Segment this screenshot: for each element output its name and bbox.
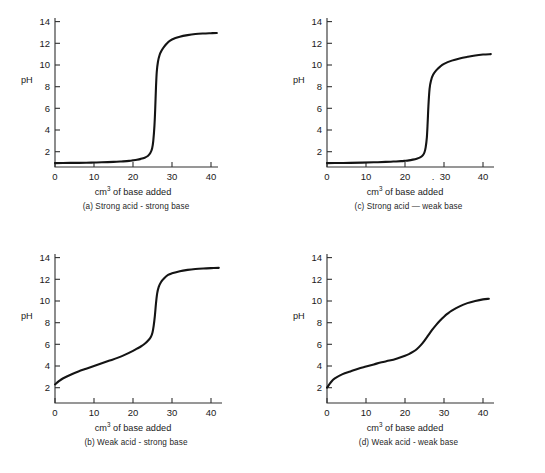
panel-c: pH 14 12 10 8 6 4 2 — [272, 0, 545, 236]
svg-text:10: 10 — [361, 171, 372, 182]
chart-c-plot: pH 14 12 10 8 6 4 2 — [272, 0, 545, 236]
svg-text:14: 14 — [39, 252, 50, 263]
panel-d: pH 14 12 10 8 6 4 2 — [272, 236, 545, 473]
svg-text:10: 10 — [311, 295, 322, 306]
y-axis-label-a: pH — [21, 75, 33, 85]
x-tick-labels-d: 0 10 20 30 40 — [324, 407, 488, 418]
svg-text:4: 4 — [45, 360, 50, 371]
axes-c — [327, 18, 494, 167]
svg-text:8: 8 — [45, 317, 50, 328]
x-ticks-d — [327, 398, 483, 403]
x-tick-labels-c: 0 10 20 . 30 40 — [324, 171, 488, 182]
svg-text:10: 10 — [361, 407, 372, 418]
x-ticks-b — [55, 398, 211, 403]
axes-b — [55, 254, 222, 403]
y-tick-labels-c: 14 12 10 8 6 4 2 — [311, 16, 322, 157]
panel-a: pH 14 12 10 8 6 4 2 — [0, 0, 272, 236]
svg-text:40: 40 — [478, 171, 489, 182]
svg-text:30: 30 — [439, 407, 450, 418]
svg-text:20: 20 — [128, 171, 139, 182]
y-ticks-a — [55, 22, 60, 152]
svg-text:12: 12 — [39, 274, 50, 285]
titration-curves-figure: pH 14 12 10 8 6 4 2 — [0, 0, 545, 473]
y-tick-labels-d: 14 12 10 8 6 4 2 — [311, 252, 322, 393]
svg-text:40: 40 — [478, 407, 489, 418]
x-tick-labels-a: 0 10 20 30 40 — [52, 171, 216, 182]
y-axis-label-c: pH — [293, 75, 305, 85]
y-tick-labels-b: 14 12 10 8 6 4 2 — [39, 252, 50, 393]
chart-a-plot: pH 14 12 10 8 6 4 2 — [0, 0, 272, 236]
svg-text:10: 10 — [89, 407, 100, 418]
curve-a — [55, 33, 217, 163]
scan-artifact-dot-c: . — [432, 171, 435, 182]
x-axis-label-c: cm3 of base added — [367, 185, 444, 197]
x-tick-labels-b: 0 10 20 30 40 — [52, 407, 216, 418]
y-ticks-c — [327, 22, 332, 152]
svg-text:30: 30 — [167, 171, 178, 182]
svg-text:30: 30 — [167, 407, 178, 418]
svg-text:2: 2 — [45, 146, 50, 157]
svg-text:12: 12 — [39, 38, 50, 49]
svg-text:30: 30 — [440, 171, 451, 182]
svg-text:2: 2 — [45, 382, 50, 393]
curve-b — [55, 268, 219, 385]
svg-text:0: 0 — [52, 171, 57, 182]
y-tick-labels-a: 14 12 10 8 6 4 2 — [39, 16, 50, 157]
caption-c: (c) Strong acid — weak base — [272, 202, 545, 211]
svg-text:6: 6 — [317, 103, 322, 114]
y-axis-label-b: pH — [21, 311, 33, 321]
x-axis-label-b: cm3 of base added — [95, 421, 172, 433]
svg-text:40: 40 — [206, 407, 217, 418]
svg-text:10: 10 — [311, 59, 322, 70]
y-axis-label-d: pH — [293, 311, 305, 321]
axes-a — [55, 18, 218, 167]
svg-text:6: 6 — [45, 339, 50, 350]
svg-text:4: 4 — [45, 124, 50, 135]
svg-text:20: 20 — [400, 407, 411, 418]
svg-text:0: 0 — [324, 171, 329, 182]
caption-b: (b) Weak acid - strong base — [0, 438, 272, 447]
svg-text:4: 4 — [317, 124, 322, 135]
panel-b: pH 14 12 10 8 6 4 2 — [0, 236, 272, 473]
x-axis-label-d: cm3 of base added — [367, 421, 444, 433]
x-axis-label-a: cm3 of base added — [95, 185, 172, 197]
svg-text:6: 6 — [45, 103, 50, 114]
svg-text:2: 2 — [317, 382, 322, 393]
svg-text:10: 10 — [89, 171, 100, 182]
svg-text:12: 12 — [311, 38, 322, 49]
svg-text:20: 20 — [128, 407, 139, 418]
svg-text:8: 8 — [45, 81, 50, 92]
svg-text:4: 4 — [317, 360, 322, 371]
curve-d — [327, 299, 489, 388]
svg-text:8: 8 — [317, 317, 322, 328]
svg-text:14: 14 — [311, 252, 322, 263]
svg-text:10: 10 — [39, 295, 50, 306]
curve-c — [327, 54, 491, 163]
svg-text:10: 10 — [39, 59, 50, 70]
svg-text:12: 12 — [311, 274, 322, 285]
svg-text:14: 14 — [39, 16, 50, 27]
axes-d — [327, 254, 494, 403]
svg-text:6: 6 — [317, 339, 322, 350]
svg-text:14: 14 — [311, 16, 322, 27]
svg-text:40: 40 — [206, 171, 217, 182]
svg-text:8: 8 — [317, 81, 322, 92]
caption-a: (a) Strong acid - strong base — [0, 202, 272, 211]
y-ticks-d — [327, 258, 332, 388]
y-ticks-b — [55, 258, 60, 388]
svg-text:2: 2 — [317, 146, 322, 157]
svg-text:0: 0 — [324, 407, 329, 418]
caption-d: (d) Weak acid - weak base — [272, 438, 545, 447]
svg-text:20: 20 — [400, 171, 411, 182]
svg-text:0: 0 — [52, 407, 57, 418]
